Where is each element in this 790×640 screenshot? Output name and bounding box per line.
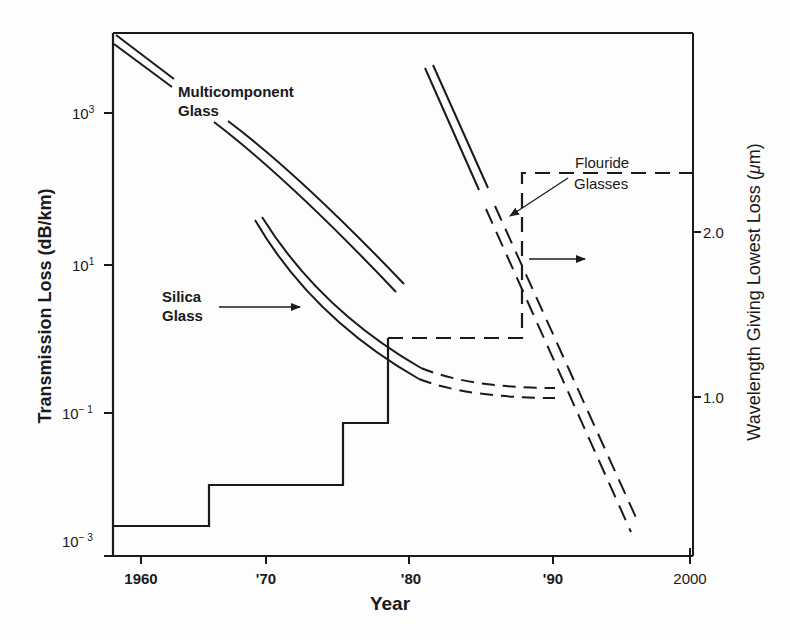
y-tick-1e1: 101 bbox=[72, 256, 95, 274]
series-multicomponent-glass bbox=[114, 35, 404, 292]
y-right-tick-1: 1.0 bbox=[703, 389, 724, 406]
x-tick-70: '70 bbox=[256, 570, 276, 587]
x-tick-80: '80 bbox=[401, 570, 421, 587]
left-y-ticks bbox=[104, 113, 113, 413]
right-y-ticks bbox=[693, 232, 701, 397]
left-y-axis-label: Transmission Loss (dB/km) bbox=[35, 188, 55, 423]
label-fluoride-glasses: Glasses bbox=[574, 175, 628, 192]
y-tick-1e3: 103 bbox=[72, 104, 95, 122]
label-silica: Silica bbox=[162, 288, 202, 305]
y-right-tick-2: 2.0 bbox=[703, 224, 724, 241]
right-y-axis-label: Wavelength Giving Lowest Loss (μm) bbox=[744, 143, 764, 440]
series-fluoride-glasses bbox=[425, 65, 638, 532]
series-wavelength-step bbox=[113, 173, 693, 526]
label-multicomponent: Multicomponent bbox=[178, 83, 294, 100]
y-tick-1e-3: 10− 3 bbox=[62, 532, 93, 550]
label-fluoride: Flouride bbox=[575, 154, 629, 171]
y-tick-1e-1: 10− 1 bbox=[62, 404, 93, 422]
x-tick-90: '90 bbox=[543, 570, 563, 587]
label-multicomponent-glass: Glass bbox=[178, 102, 219, 119]
x-tick-1960: 1960 bbox=[124, 570, 157, 587]
x-tick-2000: 2000 bbox=[673, 570, 706, 587]
left-y-tick-labels: 103 101 10− 1 10− 3 bbox=[62, 104, 95, 550]
x-axis-label: Year bbox=[370, 593, 411, 614]
right-y-tick-labels: 2.0 1.0 bbox=[703, 224, 724, 406]
x-axis-tick-labels: 1960 '70 '80 '90 2000 bbox=[124, 570, 706, 587]
fluoride-arrow-icon bbox=[510, 178, 568, 216]
transmission-loss-chart: 1960 '70 '80 '90 2000 Year 103 101 10− 1… bbox=[0, 0, 790, 640]
label-silica-glass: Glass bbox=[162, 307, 203, 324]
